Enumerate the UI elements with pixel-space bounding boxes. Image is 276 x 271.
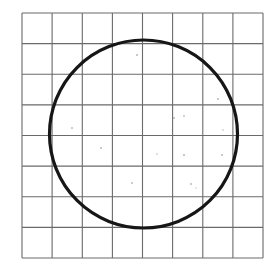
figure-container [0, 0, 276, 271]
circle-on-grid-figure [0, 0, 276, 271]
scan-speckle-13 [195, 187, 196, 188]
scan-speckle-12 [190, 183, 192, 185]
scan-speckle-4 [183, 115, 185, 117]
scan-speckle-0 [136, 54, 138, 56]
scan-speckle-11 [131, 182, 133, 184]
scan-speckle-6 [222, 129, 224, 131]
scan-speckle-10 [221, 154, 223, 156]
scan-speckle-9 [183, 154, 185, 156]
scan-speckle-7 [100, 147, 102, 149]
scan-speckle-3 [173, 117, 175, 119]
scan-speckle-5 [71, 127, 73, 129]
scan-speckle-2 [217, 98, 219, 100]
scan-speckle-8 [156, 153, 158, 155]
